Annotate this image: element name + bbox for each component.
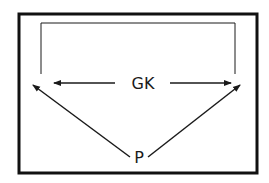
node-label-gk: GK [132, 74, 155, 93]
bracket-connector [41, 23, 235, 74]
arrow-p-left [33, 85, 130, 157]
diagram-canvas: GK P [0, 0, 269, 183]
arrow-p-right [148, 85, 240, 157]
node-label-p: P [134, 148, 144, 167]
